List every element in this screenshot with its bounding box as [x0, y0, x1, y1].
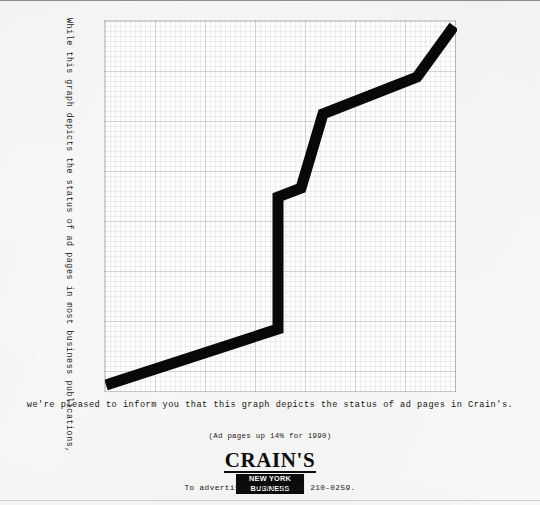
graph-paper-chart: [104, 20, 456, 392]
logo-wordmark: CRAIN'S: [224, 450, 317, 473]
chart-line-svg: [105, 21, 457, 393]
scan-edge-bottom: [0, 500, 540, 501]
advertise-line: To advertise, call (212) 210-0259.: [0, 484, 540, 492]
vertical-caption: While this graph depicts the status of a…: [61, 18, 77, 410]
bottom-caption: we're pleased to inform you that this gr…: [0, 400, 540, 410]
chart-trend-line: [106, 26, 454, 385]
tagline: (Ad pages up 14% for 1990): [0, 432, 540, 440]
scan-edge-top: [0, 0, 540, 1]
